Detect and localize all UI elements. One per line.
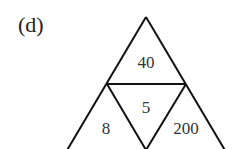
cell-top-value: 40: [138, 53, 155, 72]
cell-left-value: 8: [102, 119, 111, 138]
cell-center-value: 5: [142, 98, 151, 117]
inner-right-edge: [146, 84, 186, 149]
triangle-diagram: 40 5 8 200: [0, 0, 237, 149]
cell-right-value: 200: [173, 119, 199, 138]
inner-left-edge: [107, 84, 146, 149]
